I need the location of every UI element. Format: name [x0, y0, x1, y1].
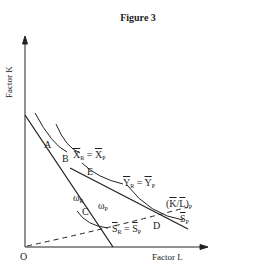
- kl-ray-label: (K/L)P: [166, 199, 192, 212]
- point-b-label: B: [62, 154, 69, 164]
- s-isoquant-label: SR = SP: [112, 224, 141, 237]
- y-isoquant-label: YR = YP: [123, 178, 155, 191]
- x-axis-arrow-icon: [200, 245, 208, 250]
- point-e-label: E: [87, 167, 93, 177]
- omega-r-label: ωR: [73, 193, 84, 206]
- omega-r-line: [25, 115, 113, 247]
- omega-p-label: ωP: [98, 201, 108, 214]
- origin-label: O: [20, 252, 27, 262]
- y-axis-label: Factor K: [4, 66, 14, 98]
- y-axis-arrow-icon: [23, 36, 28, 44]
- point-d-label: D: [153, 221, 160, 231]
- x-isoquant-label: XR = XP: [73, 150, 105, 163]
- x-axis-label: Factor L: [152, 252, 183, 262]
- point-c-label: C: [82, 207, 89, 217]
- s-p-label: SP: [180, 214, 189, 227]
- point-a-label: A: [44, 140, 51, 150]
